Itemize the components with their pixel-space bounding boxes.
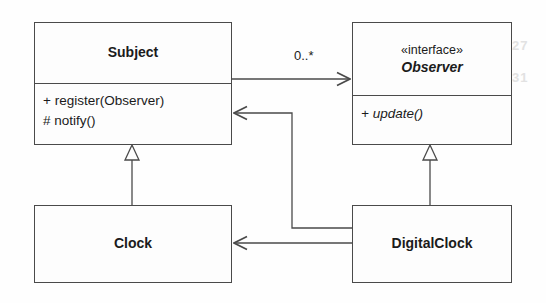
multiplicity-label-0-star: 0..* (294, 48, 314, 63)
subject-members-compartment: + register(Observer) # notify() (35, 83, 231, 144)
class-box-digitalclock[interactable]: DigitalClock (352, 205, 512, 283)
observer-stereotype: «interface» (353, 42, 511, 58)
subject-class-name: Subject (35, 44, 231, 62)
observer-class-name: Observer (353, 59, 511, 77)
generalization-digitalclock-observer (423, 145, 437, 205)
class-box-clock[interactable]: Clock (34, 205, 232, 283)
observer-members-compartment: + update() (353, 95, 511, 144)
association-digitalclock-subject (234, 113, 352, 228)
subject-name-compartment: Subject (35, 23, 231, 83)
uml-class-diagram: 27 31 Observer : association with 0..* m… (0, 0, 546, 303)
class-box-subject[interactable]: Subject + register(Observer) # notify() (34, 22, 232, 145)
class-box-observer[interactable]: «interface» Observer + update() (352, 22, 512, 145)
observer-name-compartment: «interface» Observer (353, 23, 511, 95)
clock-class-name: Clock (35, 235, 231, 253)
generalization-clock-subject (125, 145, 139, 205)
subject-member-register: + register(Observer) (35, 91, 231, 111)
scan-artifact: 31 (512, 70, 528, 85)
observer-member-update: + update() (353, 104, 511, 124)
subject-member-notify: # notify() (35, 111, 231, 131)
digitalclock-class-name: DigitalClock (353, 235, 511, 253)
clock-name-compartment: Clock (35, 206, 231, 282)
digitalclock-name-compartment: DigitalClock (353, 206, 511, 282)
scan-artifact: 27 (512, 38, 528, 53)
